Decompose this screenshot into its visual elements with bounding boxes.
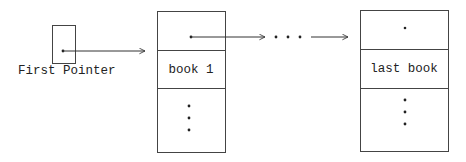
continuation-dot [404, 123, 407, 126]
continuation-dot [188, 105, 191, 108]
null-pointer-dot [404, 27, 407, 30]
continuation-dot [188, 129, 191, 132]
node-last: last book [361, 11, 449, 152]
node-last-label: last book [370, 62, 438, 76]
first-pointer: First Pointer [18, 26, 145, 79]
continuation-dot [404, 111, 407, 114]
continuation-dot [188, 117, 191, 120]
first-pointer-label: First Pointer [18, 64, 116, 78]
node-first: book 1 [158, 12, 226, 153]
linked-list-diagram: First Pointer book 1 last book [0, 0, 466, 162]
node-first-label: book 1 [168, 63, 213, 77]
continuation-dot [404, 99, 407, 102]
ellipsis-dots [275, 36, 302, 39]
